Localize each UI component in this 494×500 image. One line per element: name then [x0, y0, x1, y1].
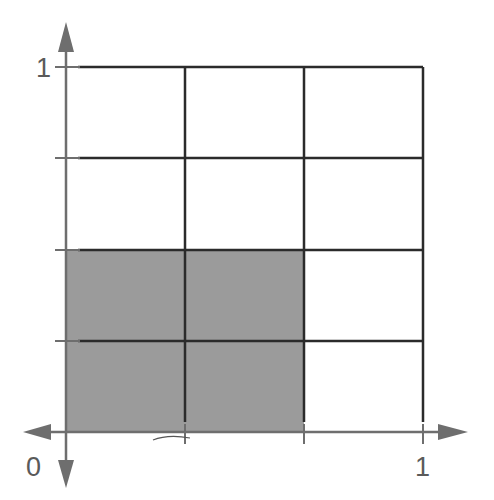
arrow-right-icon [438, 424, 468, 440]
origin-label: 0 [26, 454, 41, 481]
arrow-left-icon [23, 424, 51, 440]
arrow-up-icon [58, 22, 74, 52]
unit-square-diagram: 1 0 1 [0, 0, 494, 500]
y-axis-label-one: 1 [36, 55, 51, 82]
x-axis-label-one: 1 [415, 454, 430, 481]
arrow-down-icon [58, 460, 74, 488]
